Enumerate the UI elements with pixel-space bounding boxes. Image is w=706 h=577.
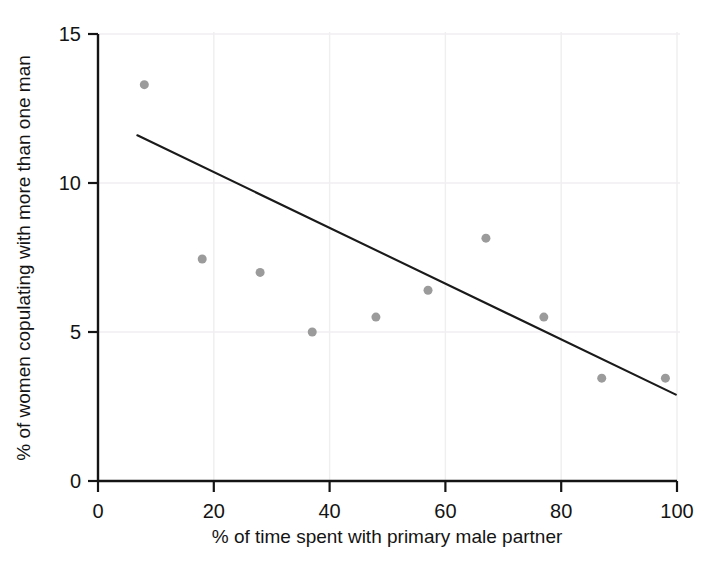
data-point [371, 313, 380, 322]
chart-figure: 051015 020406080100 % of time spent with… [0, 0, 706, 577]
y-axis-tick-label: 15 [59, 23, 81, 45]
data-point [597, 374, 606, 383]
data-point [140, 80, 149, 89]
data-point [256, 268, 265, 277]
x-axis-tick-label: 20 [203, 500, 225, 522]
data-point [661, 374, 670, 383]
data-point [481, 234, 490, 243]
scatter-plot-canvas: 051015 020406080100 % of time spent with… [0, 0, 706, 577]
x-axis-tick-label: 40 [318, 500, 340, 522]
x-axis-tick-label: 100 [660, 500, 693, 522]
y-axis-title: % of women copulating with more than one… [13, 55, 34, 461]
data-point [424, 286, 433, 295]
x-axis-title: % of time spent with primary male partne… [212, 526, 563, 547]
x-axis-tick-label: 60 [434, 500, 456, 522]
x-axis-tick-label: 80 [550, 500, 572, 522]
data-point [308, 328, 317, 337]
y-axis-tick-label: 5 [70, 321, 81, 343]
y-axis-tick-label: 10 [59, 172, 81, 194]
data-point [539, 313, 548, 322]
y-axis-tick-label: 0 [70, 470, 81, 492]
x-axis-tick-label: 0 [92, 500, 103, 522]
figure-background [0, 0, 706, 577]
data-point [198, 254, 207, 263]
